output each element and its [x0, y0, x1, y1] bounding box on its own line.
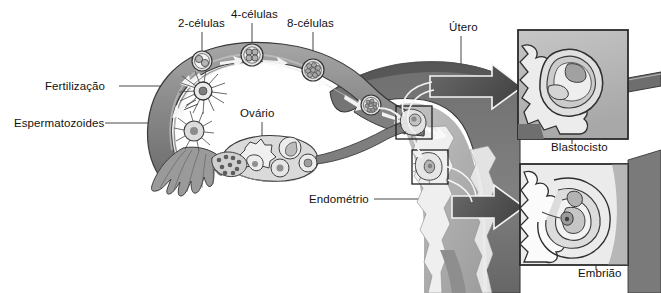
sperm-mass-core: [190, 127, 198, 135]
label-endometrio: Endométrio: [309, 193, 369, 205]
blastomere-4c-c: [246, 55, 252, 61]
label-utero: Útero: [449, 21, 478, 33]
ovary-group: [212, 118, 424, 182]
stage-2-celulas: [192, 51, 212, 71]
follicle-tertiary-core: [304, 159, 312, 167]
blastomere-4c-b: [252, 49, 258, 55]
stage-espermatozoides: [174, 111, 214, 151]
blastomere-4c-a: [246, 49, 252, 55]
blastomere-4c-d: [252, 55, 258, 61]
stage-8-celulas: [302, 59, 324, 81]
label-embriao: Embrião: [578, 267, 622, 279]
zona-inner-4c: [244, 47, 260, 63]
inset-embriao-yolk-sac: [567, 191, 582, 206]
stage-4-celulas: [241, 44, 263, 66]
label-espermatozoides: Espermatozoides: [14, 117, 104, 129]
label-ovario: Ovário: [240, 107, 274, 119]
right-tube-stub: [628, 72, 661, 293]
blastomere-2c-b: [201, 59, 208, 66]
inset-embriao-embryo-core: [565, 217, 569, 221]
figure-canvas: Fertilização Espermatozoides 2-células 4…: [0, 0, 661, 293]
label-fertilizacao: Fertilização: [45, 80, 105, 92]
label-2-celulas: 2-células: [178, 17, 225, 29]
inset-embriao: [520, 164, 628, 270]
corpus-luteum-core: [277, 165, 284, 172]
inset-blastocisto: [518, 30, 628, 144]
follicle-ruptured-core: [252, 161, 258, 167]
label-blastocisto: Blastocisto: [551, 141, 608, 153]
oocyte-nucleus: [199, 87, 207, 95]
stage-morula: [361, 95, 381, 115]
inset-blastocisto-wall: [518, 124, 544, 139]
callout-blastocisto-content: [398, 109, 426, 139]
label-8-celulas: 8-células: [287, 17, 334, 29]
right-uterus-edge: [628, 150, 661, 293]
label-4-celulas: 4-células: [231, 8, 278, 20]
